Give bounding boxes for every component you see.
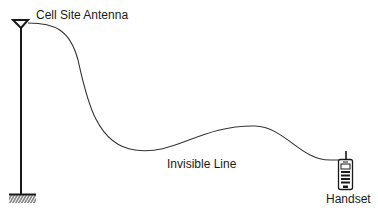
handset-label: Handset: [326, 193, 371, 205]
invisible-line-label: Invisible Line: [167, 158, 236, 170]
antenna-label: Cell Site Antenna: [36, 9, 128, 21]
invisible-line-curve: [28, 23, 342, 160]
mobile-phone-icon: [339, 151, 353, 190]
antenna-tower-icon: [9, 20, 36, 203]
diagram-canvas: [0, 0, 378, 214]
